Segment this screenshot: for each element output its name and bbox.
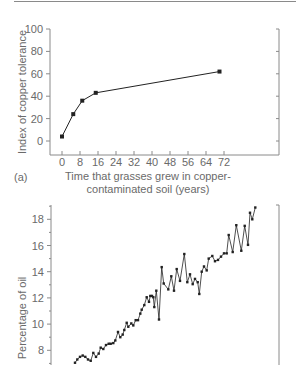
- data-point: [141, 308, 143, 310]
- data-point: [155, 289, 157, 291]
- data-point: [122, 333, 124, 335]
- data-point: [217, 259, 219, 261]
- data-point: [90, 360, 92, 362]
- chart-percentage-oil: 81012141618 Percentage of oil: [0, 0, 296, 365]
- data-point: [176, 268, 178, 270]
- data-point: [232, 251, 234, 253]
- data-point: [148, 301, 150, 303]
- data-point: [146, 296, 148, 298]
- data-point: [201, 271, 203, 273]
- data-point: [197, 281, 199, 283]
- data-point: [119, 336, 121, 338]
- data-point: [235, 224, 237, 226]
- data-point: [117, 331, 119, 333]
- data-point: [74, 362, 76, 364]
- data-point: [139, 312, 141, 314]
- data-point: [105, 344, 107, 346]
- data-point: [220, 255, 222, 257]
- data-point: [240, 250, 242, 252]
- data-point: [183, 253, 185, 255]
- data-point: [198, 293, 200, 295]
- data-point: [114, 339, 116, 341]
- data-point: [126, 322, 128, 324]
- data-point: [100, 346, 102, 348]
- data-point: [189, 273, 191, 275]
- data-point: [158, 318, 160, 320]
- y-tick-label: 16: [32, 240, 44, 252]
- data-point: [206, 269, 208, 271]
- series-percentage-oil: [74, 206, 257, 364]
- y-tick-label: 10: [32, 318, 44, 330]
- data-point: [161, 266, 163, 268]
- data-point: [98, 352, 100, 354]
- data-point: [211, 255, 213, 257]
- data-point: [79, 356, 81, 358]
- data-point: [244, 225, 246, 227]
- data-point: [132, 324, 134, 326]
- data-point: [76, 358, 78, 360]
- data-point: [152, 296, 154, 298]
- data-point: [226, 252, 228, 254]
- data-point: [223, 252, 225, 254]
- y-ticks: 81012141618: [32, 206, 51, 363]
- data-point: [95, 356, 97, 358]
- y-axis-title: Percentage of oil: [16, 277, 28, 360]
- data-point: [110, 343, 112, 345]
- data-point: [167, 288, 169, 290]
- data-point: [179, 280, 181, 282]
- data-point: [170, 275, 172, 277]
- data-point: [84, 356, 86, 358]
- data-point: [163, 282, 165, 284]
- data-point: [194, 278, 196, 280]
- data-point: [228, 234, 230, 236]
- y-tick-label: 18: [32, 213, 44, 225]
- y-tick-label: 12: [32, 292, 44, 304]
- y-tick-label: 14: [32, 266, 44, 278]
- data-point: [192, 283, 194, 285]
- data-point: [203, 265, 205, 267]
- data-point: [173, 289, 175, 291]
- series-line: [75, 208, 255, 363]
- data-point: [208, 257, 210, 259]
- data-point: [214, 260, 216, 262]
- data-point: [251, 218, 253, 220]
- data-point: [153, 306, 155, 308]
- data-point: [112, 342, 114, 344]
- data-point: [249, 212, 251, 214]
- y-tick-label: 8: [38, 344, 44, 356]
- data-point: [247, 244, 249, 246]
- data-point: [143, 304, 145, 306]
- data-point: [102, 348, 104, 350]
- data-point: [135, 319, 137, 321]
- data-point: [137, 319, 139, 321]
- data-point: [82, 354, 84, 356]
- data-point: [123, 329, 125, 331]
- data-point: [254, 206, 256, 208]
- data-point: [186, 281, 188, 283]
- data-point: [92, 352, 94, 354]
- data-point: [87, 358, 89, 360]
- data-point: [127, 326, 129, 328]
